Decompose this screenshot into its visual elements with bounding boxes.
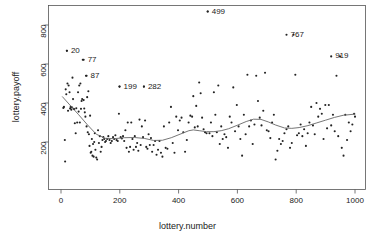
annotated-data-point [143, 86, 145, 88]
data-point [191, 116, 193, 118]
data-point [225, 136, 227, 138]
data-point [328, 104, 330, 106]
data-point [150, 137, 152, 139]
data-point [294, 74, 296, 76]
data-point [146, 148, 148, 150]
data-point [223, 133, 225, 135]
data-point [203, 128, 205, 130]
data-point [64, 160, 66, 162]
data-point [140, 144, 142, 146]
data-point [308, 121, 310, 123]
data-point [166, 148, 168, 150]
data-point [105, 140, 107, 142]
x-tick-label: 1000 [346, 196, 364, 205]
data-point [220, 125, 222, 127]
data-point [78, 111, 80, 113]
data-point [266, 129, 268, 131]
data-point [236, 104, 238, 106]
data-point [67, 110, 69, 112]
data-point [255, 75, 257, 77]
data-point [135, 146, 137, 148]
data-point [168, 121, 170, 123]
data-point [188, 121, 190, 123]
data-point [160, 152, 162, 154]
data-point [122, 135, 124, 137]
data-point [87, 131, 89, 133]
data-point [148, 133, 150, 135]
data-point [75, 107, 77, 109]
data-point [74, 122, 76, 124]
data-point [156, 154, 158, 156]
data-point [161, 156, 163, 158]
point-label: 499 [212, 7, 225, 16]
data-point [342, 155, 344, 157]
data-point [89, 115, 91, 117]
data-point [335, 75, 337, 77]
data-point [210, 121, 212, 123]
data-point [131, 138, 133, 140]
data-point [63, 106, 65, 108]
data-point [95, 157, 97, 159]
annotated-data-point [118, 86, 120, 88]
y-axis-title: lottery.payoff [11, 47, 21, 147]
data-point [289, 147, 291, 149]
x-axis-title: lottery.number [0, 221, 375, 231]
point-label: 77 [88, 55, 97, 64]
data-point [91, 138, 93, 140]
data-point [68, 84, 70, 86]
data-point [76, 121, 78, 123]
data-point [65, 93, 67, 95]
data-point [287, 125, 289, 127]
y-tick-label: 400 [38, 103, 47, 131]
data-point [276, 150, 278, 152]
data-point [354, 116, 356, 118]
data-point [334, 130, 336, 132]
y-tick-label: 800 [38, 25, 47, 53]
data-point [93, 156, 95, 158]
data-point [246, 74, 248, 76]
data-point [157, 149, 159, 151]
data-point [192, 95, 194, 97]
data-point [229, 116, 231, 118]
data-point [296, 134, 298, 136]
annotated-data-point [66, 50, 68, 52]
x-tick-label: 400 [172, 196, 185, 205]
data-point [195, 105, 197, 107]
data-point [153, 144, 155, 146]
data-point [208, 132, 210, 134]
data-point [94, 149, 96, 151]
y-tick-label: 600 [38, 64, 47, 92]
data-point [303, 128, 305, 130]
data-point [112, 136, 114, 138]
data-point [117, 140, 119, 142]
data-point [79, 82, 81, 84]
data-point [351, 123, 353, 125]
x-axis-ticks [61, 190, 355, 194]
data-point [253, 123, 255, 125]
data-point [107, 135, 109, 137]
data-point [134, 135, 136, 137]
data-point [232, 86, 234, 88]
annotated-data-point [285, 34, 287, 36]
data-point [245, 133, 247, 135]
data-point [144, 120, 146, 122]
data-point [141, 125, 143, 127]
data-point [111, 140, 113, 142]
data-point [348, 121, 350, 123]
plot-frame [49, 6, 366, 190]
data-point [79, 121, 81, 123]
scatter-plot-figure: lottery.number lottery.payoff 0200400600… [0, 0, 375, 244]
data-point [234, 130, 236, 132]
data-point [86, 125, 88, 127]
data-point [291, 142, 293, 144]
point-label: 199 [124, 82, 137, 91]
data-point [260, 124, 262, 126]
data-point [71, 77, 73, 79]
data-point [222, 138, 224, 140]
data-point [78, 84, 80, 86]
data-point [324, 104, 326, 106]
annotated-data-point [207, 10, 209, 12]
data-point [128, 151, 130, 153]
data-point [138, 119, 140, 121]
data-point [100, 151, 102, 153]
